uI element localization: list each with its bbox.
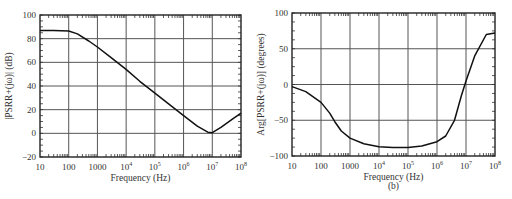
x-tick-label: 106 — [178, 161, 190, 172]
x-tick-label: 10 — [36, 162, 46, 172]
x-tick-label: 100 — [62, 162, 76, 172]
y-tick-label: 20 — [27, 105, 37, 115]
y-tick-label: 0 — [284, 80, 289, 90]
x-tick-label: 106 — [431, 160, 443, 171]
y-tick-label: 40 — [27, 81, 37, 91]
x-axis-title: Frequency (Hz) — [111, 173, 171, 184]
x-tick-label: 100 — [314, 161, 328, 171]
y-tick-label: 80 — [27, 34, 37, 44]
x-tick-label: 105 — [402, 160, 414, 171]
y-tick-label: 100 — [275, 8, 289, 18]
chart-panel-a: 100806040200−20101001000104105106107108F… — [4, 10, 247, 184]
x-tick-label: 1000 — [341, 161, 360, 171]
x-tick-label: 108 — [489, 160, 501, 171]
x-tick-label: 107 — [206, 161, 218, 172]
y-tick-label: −20 — [22, 152, 37, 162]
grid — [40, 15, 241, 157]
y-tick-label: −100 — [269, 151, 288, 161]
y-axis-title: Arg[PSRR+(jω)] (degrees) — [256, 33, 267, 135]
x-tick-label: 10 — [288, 161, 298, 171]
x-tick-label: 108 — [235, 161, 247, 172]
x-tick-label: 107 — [460, 160, 472, 171]
data-line — [40, 30, 241, 132]
y-axis-title: |PSRR+(jω)| (dB) — [4, 52, 15, 119]
x-tick-label: 105 — [149, 161, 161, 172]
chart-panel-b: 100500−50−100101001000104105106107108Fre… — [256, 8, 501, 192]
x-tick-label: 1000 — [88, 162, 107, 172]
x-tick-label: 104 — [373, 160, 385, 171]
y-tick-label: 0 — [32, 128, 37, 138]
y-tick-label: 100 — [23, 10, 37, 20]
y-tick-label: 50 — [279, 44, 289, 54]
y-tick-label: 60 — [27, 57, 37, 67]
data-line — [292, 33, 495, 147]
x-tick-label: 104 — [120, 161, 132, 172]
y-tick-label: −50 — [274, 115, 289, 125]
figure: 100806040200−20101001000104105106107108F… — [0, 0, 512, 199]
panel-caption: (b) — [388, 181, 399, 192]
